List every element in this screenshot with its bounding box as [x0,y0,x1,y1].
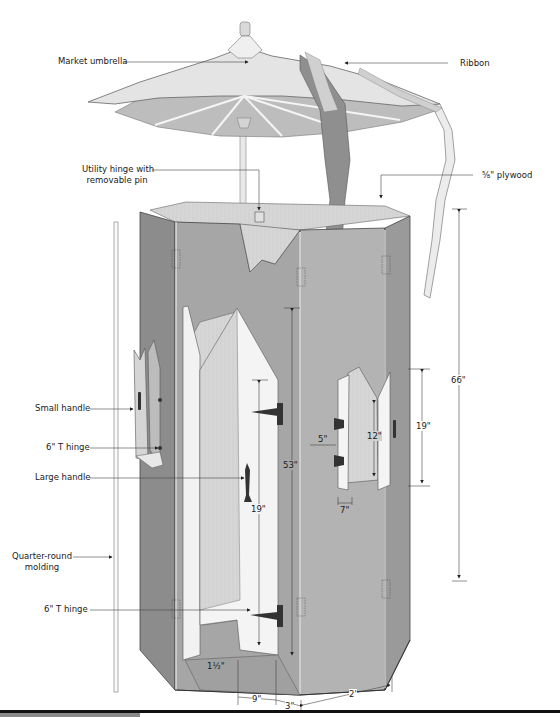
callout-large-handle: Large handle [35,472,91,483]
callout-utility-hinge: Utility hinge with removable pin [82,164,152,186]
callout-t-hinge-lower: 6" T hinge [44,604,88,615]
right-window [334,367,396,490]
dimension-window-offset: 5" [318,434,327,444]
dimension-door-handle-height: 19" [251,504,266,514]
booth-diagram: Market umbrella Ribbon Utility hinge wit… [0,0,560,717]
callout-plywood: ⅝" plywood [482,170,532,181]
callout-quarter-round-line2: molding [12,562,72,573]
callout-utility-hinge-line1: Utility hinge with [82,164,152,175]
dimension-door-width-offset: 9" [252,694,261,704]
dimension-door-height: 53" [283,460,298,470]
dimension-window-width: 7" [340,505,349,515]
callout-quarter-round-line1: Quarter-round [12,551,72,562]
dimension-door-sill: 1½" [207,661,225,671]
footer-tab [0,713,140,717]
dimension-window-sill-height: 19" [416,421,431,431]
callout-ribbon: Ribbon [460,58,490,69]
callout-utility-hinge-line2: removable pin [82,175,152,186]
dimension-panel-width: 2' [349,689,357,699]
callout-market-umbrella: Market umbrella [58,56,127,67]
callout-quarter-round-molding: Quarter-round molding [12,551,72,573]
quarter-round-molding [114,222,118,692]
market-umbrella [88,22,440,233]
callout-small-handle: Small handle [35,403,90,414]
dimension-overall-height: 66" [451,375,466,385]
dimension-window-height: 12" [367,431,382,441]
callout-t-hinge-upper: 6" T hinge [46,442,90,453]
